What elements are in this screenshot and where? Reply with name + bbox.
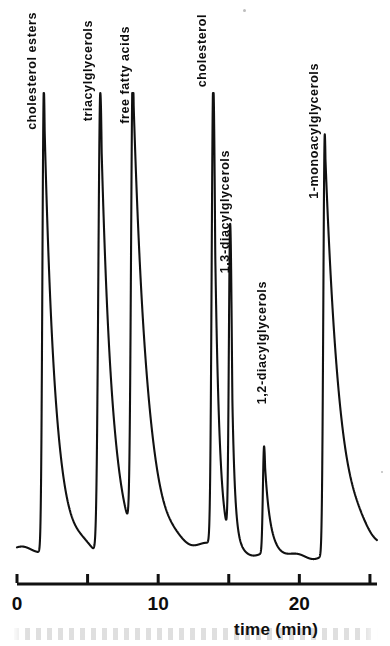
chromatogram-figure: cholesterol esters triacylglycerols free… — [0, 0, 390, 646]
peak-label-1-3-diacylglycerols: 1,3-diacylglycerols — [219, 150, 232, 273]
scan-speck — [243, 9, 246, 12]
x-axis — [17, 574, 377, 584]
x-tick-label-0: 0 — [7, 594, 27, 613]
x-tick-label-20: 20 — [284, 594, 314, 613]
chromatogram-trace — [17, 93, 377, 559]
peak-label-cholesterol: cholesterol — [196, 14, 209, 87]
peak-label-1-monoacylglycerols: 1-monoacylglycerols — [308, 63, 321, 199]
chromatogram-plot — [0, 0, 390, 646]
peak-label-1-2-diacylglycerols: 1,2-diacylglycerols — [256, 281, 269, 404]
x-axis-ticks — [17, 574, 370, 583]
peak-label-triacylglycerols: triacylglycerols — [82, 20, 95, 121]
page-scan-artifact — [12, 628, 378, 640]
x-tick-label-10: 10 — [143, 594, 173, 613]
peak-label-cholesterol-esters: cholesterol esters — [26, 12, 39, 130]
peak-label-free-fatty-acids: free fatty acids — [119, 26, 132, 124]
scan-speck — [381, 471, 383, 473]
